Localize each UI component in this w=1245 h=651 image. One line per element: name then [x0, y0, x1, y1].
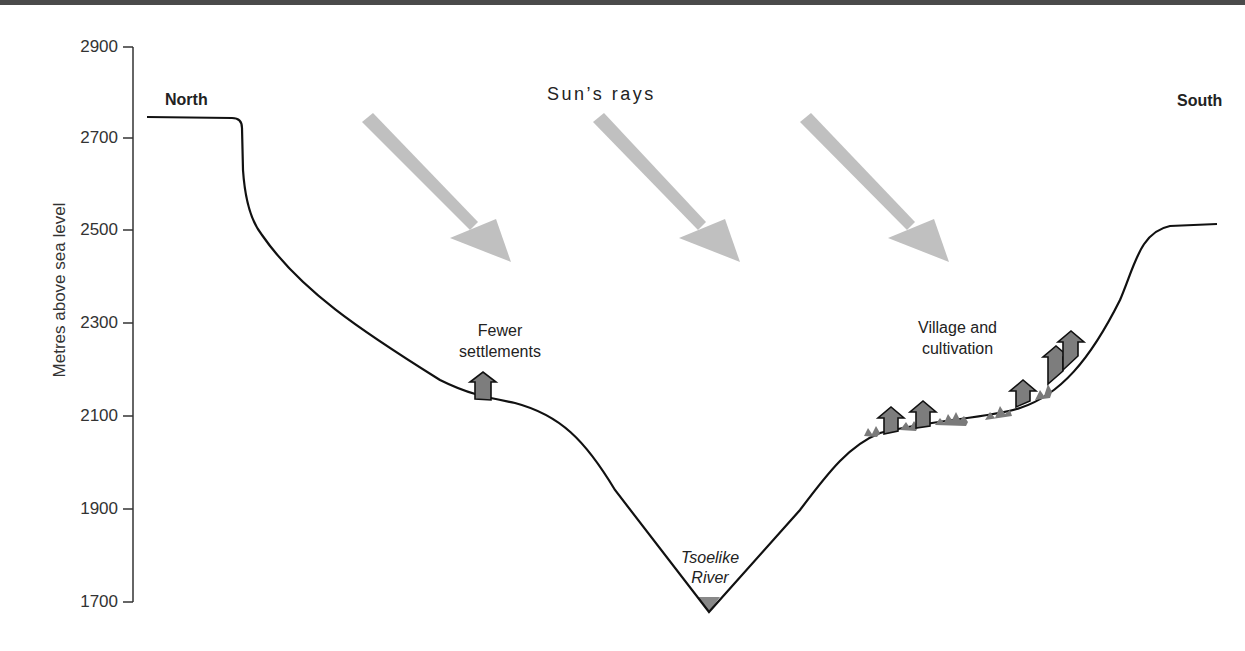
sun-ray-arrow-2 [593, 113, 740, 262]
y-tick-1900: 1900 [58, 499, 118, 519]
sun-ray-arrows [362, 113, 949, 262]
y-tick-2100: 2100 [58, 406, 118, 426]
south-label: South [1177, 92, 1222, 110]
fewer-settlements-label: Fewer settlements [445, 320, 555, 362]
fewer-settlements-line-2: settlements [445, 341, 555, 362]
sun-ray-arrow-3 [800, 113, 949, 262]
sun-ray-arrow-1 [362, 113, 511, 262]
village-cultivation-line-1: Village and [895, 317, 1020, 338]
y-tick-2700: 2700 [58, 128, 118, 148]
fewer-settlements-line-1: Fewer [445, 320, 555, 341]
north-label: North [165, 91, 208, 109]
village-cultivation-line-2: cultivation [895, 338, 1020, 359]
river-label-line-1: Tsoelike [665, 548, 755, 568]
sun-rays-label: Sun’s rays [547, 84, 656, 105]
y-tick-2900: 2900 [58, 37, 118, 57]
village-cultivation-label: Village and cultivation [895, 317, 1020, 359]
y-axis [123, 47, 133, 602]
y-axis-title: Metres above sea level [50, 190, 70, 390]
y-tick-1700: 1700 [58, 592, 118, 612]
river-label-line-2: River [665, 568, 755, 588]
river-label: Tsoelike River [665, 548, 755, 588]
